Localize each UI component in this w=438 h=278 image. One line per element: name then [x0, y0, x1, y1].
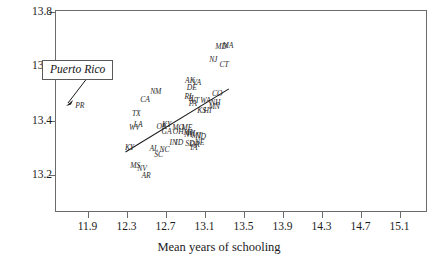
data-point-label: PR: [75, 102, 84, 110]
data-point-label: CT: [219, 61, 228, 69]
x-axis-title: Mean years of schooling: [0, 240, 438, 255]
y-axis-tick-label: 13.2: [12, 169, 52, 181]
x-axis-tick: [205, 212, 206, 218]
data-point-label: DE: [187, 84, 197, 92]
y-axis-tick-label: 13.8: [12, 6, 52, 18]
x-axis-tick: [244, 212, 245, 218]
data-point-label: GA: [162, 128, 172, 136]
data-point-label: PA: [189, 100, 197, 108]
x-axis-tick-label: 15.1: [377, 221, 423, 233]
data-point-label: CA: [140, 96, 150, 104]
scatter-plot-figure: 13.813.613.413.2 11.912.312.713.113.513.…: [0, 0, 438, 278]
data-point-label: WV: [129, 124, 140, 132]
data-point-label: AR: [141, 172, 150, 180]
x-axis-tick: [400, 212, 401, 218]
data-point-label: ID: [175, 139, 183, 147]
x-axis-tick: [166, 212, 167, 218]
x-axis-tick: [127, 212, 128, 218]
x-axis-tick: [88, 212, 89, 218]
data-point-label: SC: [154, 152, 163, 160]
puerto-rico-annotation: Puerto Rico: [42, 60, 113, 80]
data-point-label: MA: [223, 42, 234, 50]
data-point-label: NM: [150, 88, 161, 96]
x-axis-tick: [361, 212, 362, 218]
x-axis-tick: [283, 212, 284, 218]
data-point-label: OH: [173, 128, 184, 136]
data-point-label: IA: [190, 145, 197, 153]
data-point-label: KY: [125, 144, 134, 152]
y-axis-tick-label: 13.4: [12, 115, 52, 127]
data-point-label: HI: [204, 107, 212, 115]
plot-area: [55, 10, 427, 212]
data-point-label: NJ: [209, 56, 217, 64]
x-axis-tick: [322, 212, 323, 218]
data-point-label: TX: [132, 110, 141, 118]
